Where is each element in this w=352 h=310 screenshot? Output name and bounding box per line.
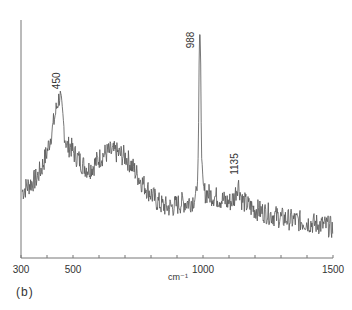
- x-tick-label: 1000: [192, 264, 215, 275]
- peak-label: 988: [185, 31, 196, 48]
- panel-label: (b): [16, 285, 34, 299]
- spectrum-chart: 30050010001500 4509881135 cm⁻¹ (b): [0, 0, 352, 310]
- x-tick-label: 300: [13, 264, 30, 275]
- series-group: [22, 35, 332, 238]
- x-tick-label: 1500: [322, 264, 345, 275]
- peak-label: 450: [51, 72, 62, 89]
- spectrum-line: [22, 35, 332, 238]
- x-axis-label: cm⁻¹: [168, 272, 188, 282]
- x-tick-label: 500: [65, 264, 82, 275]
- peak-label: 1135: [229, 153, 240, 175]
